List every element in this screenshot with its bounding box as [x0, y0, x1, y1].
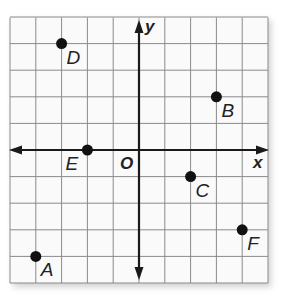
point-label: E [65, 153, 78, 174]
point-dot-icon [185, 171, 196, 182]
point-dot-icon [82, 145, 93, 156]
point-label: F [247, 233, 260, 254]
point-dot-icon [237, 224, 248, 235]
point-label: C [196, 180, 210, 201]
origin-label: O [120, 154, 133, 173]
point-label: D [67, 47, 81, 68]
point-dot-icon [211, 91, 222, 102]
point-label: A [40, 259, 54, 280]
point-dot-icon [56, 38, 67, 49]
y-axis-label: y [144, 17, 156, 36]
point-label: B [221, 100, 234, 121]
point-dot-icon [30, 251, 41, 262]
coordinate-plane: ABCDEF x y O [0, 0, 288, 305]
x-axis-label: x [252, 153, 264, 172]
